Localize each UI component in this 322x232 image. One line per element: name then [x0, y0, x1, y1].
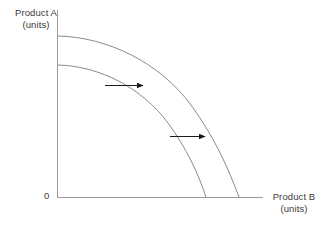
- ppf-curve-original: [58, 65, 206, 197]
- y-axis-label-line-1: Product A: [8, 7, 64, 19]
- ppf-diagram: Product A (units) Product B (units) 0: [0, 0, 322, 232]
- x-axis-label-line-1: Product B: [267, 191, 321, 203]
- y-axis-label: Product A (units): [8, 7, 64, 31]
- x-axis-label: Product B (units): [267, 191, 321, 215]
- ppf-curve-shifted: [58, 36, 239, 197]
- x-axis-label-line-2: (units): [267, 203, 321, 215]
- y-axis-label-line-2: (units): [8, 19, 64, 31]
- origin-label: 0: [44, 190, 49, 201]
